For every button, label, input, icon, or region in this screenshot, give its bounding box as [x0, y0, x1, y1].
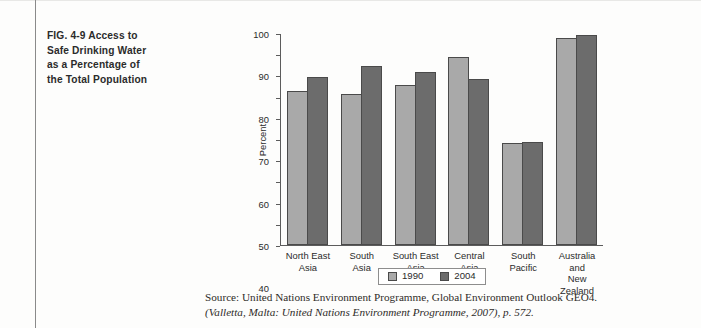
y-tick-label: 50: [259, 242, 269, 251]
y-axis-title: Percent: [257, 124, 268, 156]
bar-group: [281, 34, 335, 245]
figure-page: FIG. 4-9 Access to Safe Drinking Water a…: [0, 0, 701, 328]
y-tick: 0: [276, 246, 280, 247]
x-axis-label-line: South: [335, 250, 389, 262]
bar-2004: [522, 142, 543, 245]
caption-divider-rule: [35, 0, 36, 328]
bar-1990: [556, 38, 577, 245]
bar-groups: [281, 34, 603, 245]
y-tick: 60: [276, 119, 280, 120]
x-axis-label-line: Pacific: [496, 262, 550, 274]
caption-line-4: the Total Population: [47, 73, 207, 88]
bar-1990: [395, 85, 416, 245]
caption-line-3: as a Percentage of: [47, 58, 207, 73]
legend-item-2004: 2004: [440, 271, 475, 281]
figure-caption: FIG. 4-9 Access to Safe Drinking Water a…: [47, 29, 207, 87]
x-axis-label-line: Australia and: [550, 250, 604, 273]
x-axis-label-line: South: [496, 250, 550, 262]
source-note: Source: United Nations Environment Progr…: [205, 290, 675, 319]
x-axis-label-line: Asia: [281, 262, 335, 274]
x-axis-line: [280, 245, 603, 246]
y-tick: 90: [276, 55, 280, 56]
caption-line-2: Safe Drinking Water: [47, 44, 207, 59]
source-line-1: Source: United Nations Environment Progr…: [205, 290, 675, 305]
x-axis-label-line: North East: [281, 250, 335, 262]
bar-1990: [502, 143, 523, 245]
x-axis-label-line: South East: [389, 250, 443, 262]
bar-group: [496, 34, 550, 245]
bar-2004: [307, 77, 328, 245]
bar-2004: [468, 79, 489, 245]
bar-chart: Percent 0102030405060708090100 North Eas…: [232, 24, 632, 274]
y-tick-label: 80: [259, 114, 269, 123]
legend-swatch-icon: [388, 272, 397, 281]
y-tick: 10: [276, 225, 280, 226]
y-tick-label: 100: [253, 30, 269, 39]
y-tick-label: 90: [259, 72, 269, 81]
y-tick: 70: [276, 98, 280, 99]
y-tick: 40: [276, 161, 280, 162]
bar-1990: [448, 57, 469, 245]
y-tick-label: 60: [259, 199, 269, 208]
bar-group: [549, 34, 603, 245]
y-tick: 30: [276, 182, 280, 183]
plot-area: Percent 0102030405060708090100: [280, 34, 603, 246]
legend-label: 2004: [454, 271, 475, 281]
source-line-2: (Valletta, Malta: United Nations Environ…: [205, 305, 675, 320]
y-tick: 80: [276, 76, 280, 77]
bar-2004: [576, 35, 597, 245]
y-tick: 20: [276, 204, 280, 205]
bar-1990: [287, 91, 308, 245]
bar-2004: [361, 66, 382, 245]
y-tick-label: 70: [259, 157, 269, 166]
caption-line-1: FIG. 4-9 Access to: [47, 29, 207, 44]
chart-legend: 19902004: [378, 268, 486, 285]
legend-label: 1990: [402, 271, 423, 281]
x-axis-label-line: Central: [442, 250, 496, 262]
page-top-rule: [0, 0, 701, 1]
legend-item-1990: 1990: [388, 271, 423, 281]
bar-group: [442, 34, 496, 245]
bar-group: [335, 34, 389, 245]
legend-swatch-icon: [440, 272, 449, 281]
bar-group: [388, 34, 442, 245]
bar-2004: [415, 72, 436, 245]
y-tick: 100: [276, 34, 280, 35]
bar-1990: [341, 94, 362, 245]
y-tick: 50: [276, 140, 280, 141]
